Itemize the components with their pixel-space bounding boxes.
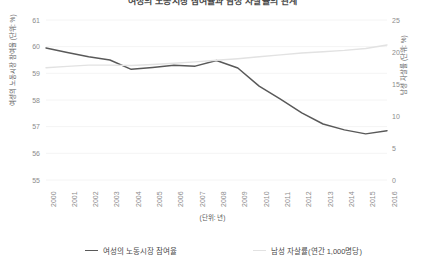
series-lines xyxy=(46,45,387,134)
legend-label: 남성 자살률(연간 1,000명당) xyxy=(271,245,362,256)
legend-line-swatch xyxy=(85,250,98,251)
legend-entry[interactable]: 여성의 노동시장 참여율 xyxy=(85,243,177,257)
line-chart: 여성의 노동시장 참여율과 남성 자살률의 관계 여성의 노동시장 참여율 (단… xyxy=(0,0,425,265)
legend-line-swatch xyxy=(253,250,266,251)
legend-entry[interactable]: 남성 자살률(연간 1,000명당) xyxy=(253,243,362,257)
chart-legend: 여성의 노동시장 참여율남성 자살률(연간 1,000명당) xyxy=(0,243,425,257)
legend-label: 여성의 노동시장 참여율 xyxy=(103,245,177,256)
plot-area xyxy=(0,0,425,265)
series-line xyxy=(46,45,387,68)
gridlines xyxy=(46,20,387,180)
